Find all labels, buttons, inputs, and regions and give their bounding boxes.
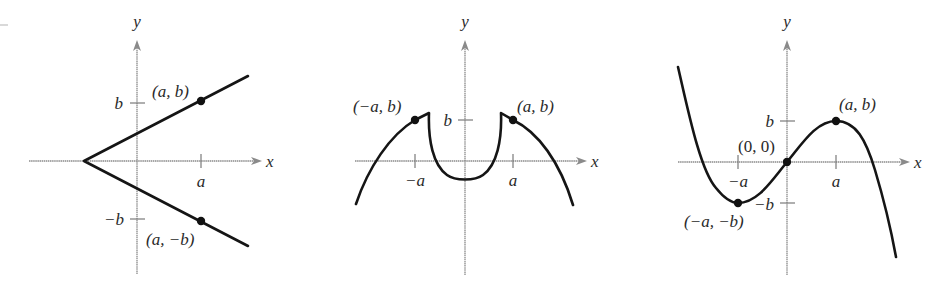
point-a-b (509, 116, 517, 124)
tick-label-neg-b: −b (104, 210, 124, 229)
point-label-a-b: (a, b) (152, 82, 189, 101)
point-neg-a-b (411, 116, 419, 124)
point-neg-a-neg-b (734, 199, 742, 207)
tick-label-neg-a: −a (728, 172, 748, 191)
point-a-b (832, 117, 840, 125)
y-axis-label: y (459, 12, 469, 31)
tick-label-b: b (444, 111, 453, 130)
tick-label-a: a (509, 171, 518, 190)
x-axis-label: x (913, 153, 922, 172)
graph-1: y x a b −b (a, b) (a, −b) (29, 12, 274, 274)
point-a-b (197, 97, 205, 105)
x-axis-label: x (265, 152, 274, 171)
y-axis-label: y (131, 12, 141, 31)
graph-2: y x −a a b (−a, b) (a, b) (353, 12, 599, 275)
point-label-origin: (0, 0) (738, 137, 775, 156)
point-label-a-neg-b: (a, −b) (146, 230, 195, 249)
point-label-neg-a-neg-b: (−a, −b) (684, 212, 744, 231)
tick-label-a: a (832, 172, 841, 191)
graph-3: y x −a a b −b (a, b) (0, 0) (−a, −b) (678, 12, 922, 275)
point-label-a-b: (a, b) (839, 95, 876, 114)
point-label-a-b: (a, b) (517, 97, 554, 116)
tick-label-b: b (115, 94, 124, 113)
tick-label-a: a (197, 172, 206, 191)
tick-label-neg-b: −b (754, 195, 774, 214)
point-origin (783, 158, 791, 166)
y-axis-arrow-icon (133, 40, 141, 51)
figure-canvas: y x a b −b (a, b) (a, −b) y x −a a b (−a… (0, 0, 943, 290)
point-a-neg-b (197, 217, 205, 225)
x-axis-label: x (590, 152, 599, 171)
point-label-neg-a-b: (−a, b) (353, 97, 402, 116)
tick-label-b: b (766, 112, 775, 131)
y-axis-label: y (781, 12, 791, 31)
tick-label-neg-a: −a (405, 171, 425, 190)
